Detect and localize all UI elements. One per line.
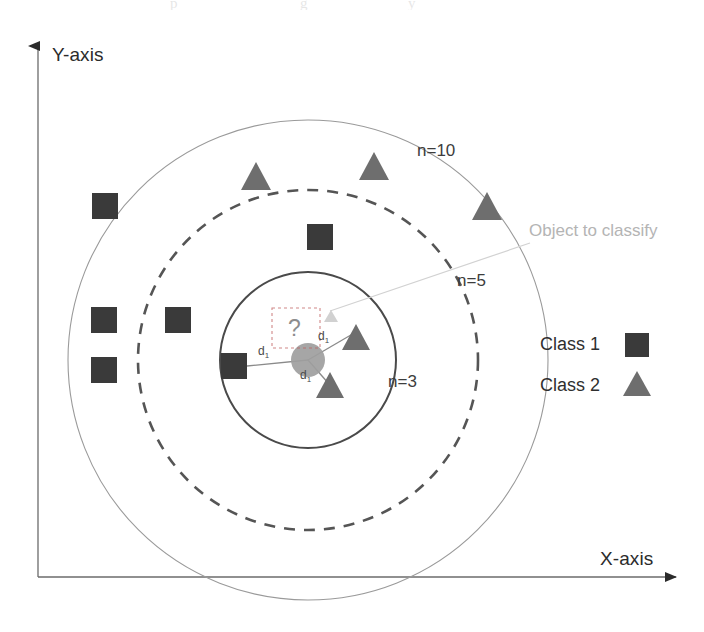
axes-group — [38, 46, 676, 577]
ring-label-n5: n=5 — [457, 272, 486, 289]
distance-label-sub: 1 — [307, 375, 311, 384]
x-axis-label: X-axis — [600, 549, 653, 568]
legend-triangle-icon — [623, 371, 651, 396]
object-to-classify-label: Object to classify — [529, 222, 658, 239]
legend-square-icon — [625, 333, 649, 357]
ghost-triangle-icon — [324, 310, 338, 322]
class1-square-marker — [165, 307, 191, 333]
distance-label-text: d — [258, 344, 265, 358]
legend-label-class2: Class 2 — [540, 376, 600, 394]
distance-label-left: d1 — [258, 345, 269, 360]
class2-triangle-marker — [241, 162, 271, 190]
distance-label-downright: d1 — [300, 369, 311, 384]
class1-square-marker — [91, 307, 117, 333]
distance-label-text: d — [300, 368, 307, 382]
class1-square-marker — [91, 357, 117, 383]
query-question-mark: ? — [288, 317, 301, 340]
distance-label-upright: d1 — [318, 330, 329, 345]
class1-square-marker — [221, 353, 247, 379]
class2-triangle-marker — [359, 152, 389, 180]
ring-label-n10: n=10 — [417, 142, 455, 159]
distance-label-sub: 1 — [265, 351, 269, 360]
class1-square-marker — [92, 193, 118, 219]
distance-label-sub: 1 — [325, 336, 329, 345]
class1-square-marker — [307, 224, 333, 250]
diagram-svg — [0, 0, 704, 632]
legend-label-class1: Class 1 — [540, 335, 600, 353]
class2-triangle-marker — [472, 192, 502, 220]
y-axis-label: Y-axis — [52, 45, 104, 64]
ring-label-n3: n=3 — [388, 373, 417, 390]
object-leader-line — [330, 243, 530, 311]
figure-canvas: p g y Y-axis X-axis n=10 n=5 n=3 Object … — [0, 0, 704, 632]
distance-label-text: d — [318, 329, 325, 343]
class2-triangle-marker — [316, 372, 344, 398]
